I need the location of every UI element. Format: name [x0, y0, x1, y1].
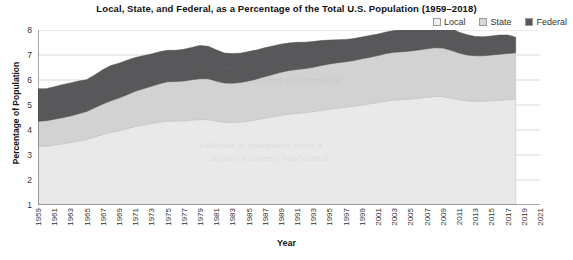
x-tick-label: 1963	[66, 208, 75, 226]
x-tick-label: 2001	[374, 208, 383, 226]
x-tick-label: 1991	[293, 208, 302, 226]
x-tick-label: 2003	[390, 208, 399, 226]
x-tick-label: 1997	[342, 208, 351, 226]
x-tick-label: 1971	[131, 208, 140, 226]
x-tick-label: 1979	[196, 208, 205, 226]
x-tick-label: 1967	[99, 208, 108, 226]
x-tick-label: 1981	[212, 208, 221, 226]
x-tick-label: 1983	[228, 208, 237, 226]
x-tick-label: 1995	[325, 208, 334, 226]
x-tick-label: 2013	[471, 208, 480, 226]
x-tick-label: 1959	[34, 208, 43, 226]
x-tick-label: 2007	[423, 208, 432, 226]
x-tick-label: 1987	[261, 208, 270, 226]
x-tick-label: 1977	[180, 208, 189, 226]
x-tick-label: 2005	[406, 208, 415, 226]
page-bleed-strip	[0, 248, 573, 260]
x-tick-label: 2009	[439, 208, 448, 226]
x-axis-title: Year	[0, 238, 573, 248]
x-tick-label: 2021	[536, 208, 545, 226]
x-tick-label: 2011	[455, 208, 464, 225]
x-tick-label: 1969	[115, 208, 124, 226]
x-tick-label: 2019	[520, 208, 529, 226]
x-tick-label: 1989	[277, 208, 286, 226]
x-tick-label: 1961	[50, 208, 59, 226]
chart-root: Local, State, and Federal, as a Percenta…	[0, 0, 573, 260]
x-tick-label: 2017	[504, 208, 513, 226]
x-tick-label: 1985	[245, 208, 254, 226]
x-tick-label: 1975	[164, 208, 173, 226]
x-axis-tick-labels: 1959196119631965196719691971197319751977…	[0, 0, 573, 260]
x-tick-label: 1999	[358, 208, 367, 226]
x-tick-label: 1965	[83, 208, 92, 226]
x-tick-label: 2015	[487, 208, 496, 226]
x-tick-label: 1993	[309, 208, 318, 226]
x-tick-label: 1973	[147, 208, 156, 226]
